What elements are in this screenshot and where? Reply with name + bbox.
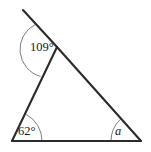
geometry-figure-canvas: 109° 62° a — [0, 0, 151, 152]
triangle-diagram-svg: 109° 62° a — [0, 0, 151, 152]
unknown-angle-label: a — [115, 124, 121, 138]
interior-angle-label: 62° — [18, 124, 36, 138]
exterior-angle-label: 109° — [30, 40, 54, 54]
